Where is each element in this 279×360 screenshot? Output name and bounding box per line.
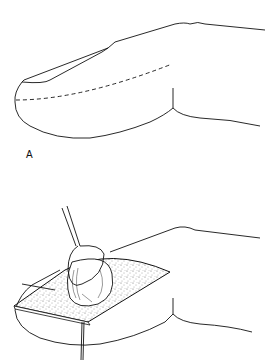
mass-lesion xyxy=(67,259,112,306)
panel-a-finger xyxy=(15,23,265,139)
suture-thread xyxy=(81,322,84,360)
illustration-svg: A xyxy=(0,0,279,360)
panel-a-label: A xyxy=(26,149,33,160)
